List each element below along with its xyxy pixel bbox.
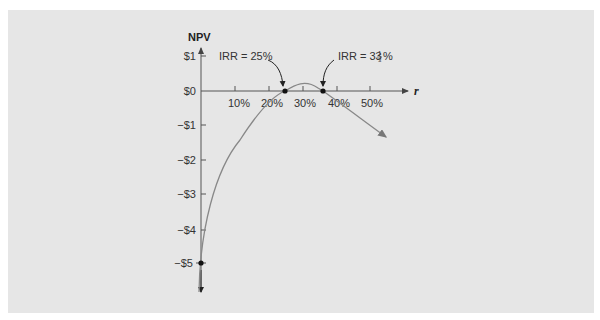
svg-text:%: % <box>383 50 393 62</box>
irr-25-arrow <box>268 60 283 86</box>
y-tick-label: $0 <box>184 85 196 97</box>
y-axis-title: NPV <box>188 31 211 43</box>
y-tick-label: $1 <box>184 50 196 62</box>
x-tick-label: 50% <box>361 97 383 109</box>
npv-intercept-point <box>198 260 203 265</box>
y-tick-label: −$5 <box>174 257 193 269</box>
irr-33-arrow <box>323 60 334 86</box>
x-axis-title: r <box>414 84 419 98</box>
npv-curve <box>199 83 386 292</box>
irr-point-25 <box>282 88 287 93</box>
irr-25-label: IRR = 25% <box>219 50 273 62</box>
y-tick-label: −$2 <box>177 154 196 166</box>
x-tick-label: 30% <box>294 97 316 109</box>
x-tick-label: 10% <box>228 97 250 109</box>
svg-text:IRR = 33: IRR = 33 <box>338 50 382 62</box>
x-ticks <box>235 86 370 91</box>
y-tick-label: −$3 <box>177 188 196 200</box>
irr-33-label: IRR = 33 1 3 % <box>338 50 393 63</box>
irr-point-33 <box>320 88 325 93</box>
y-tick-label: −$4 <box>177 224 196 236</box>
npv-chart: NPV r $1 $0 −$1 −$2 −$3 −$4 −$5 10% 20% … <box>0 0 600 320</box>
y-tick-label: −$1 <box>177 119 196 131</box>
